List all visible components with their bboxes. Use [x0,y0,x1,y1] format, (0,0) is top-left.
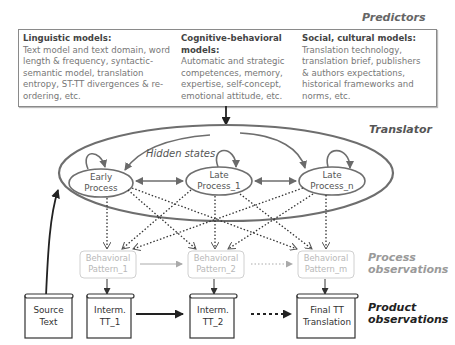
doc-line: Final TT [297,305,357,317]
doc-line: TT_1 [87,317,133,329]
behavioral-pattern-m: Behavioral Pattern_m [298,253,354,275]
node-late-process-n: Late Process_n [299,170,365,192]
hidden-states-label: Hidden states [146,148,215,159]
doc-line: Translation [297,317,357,329]
node-late-process-1: Late Process_1 [186,170,252,192]
doc-final-tt: Final TT Translation [297,305,357,328]
behavioral-pattern-2: Behavioral Pattern_2 [188,253,244,275]
pattern-line: Pattern_1 [80,264,136,275]
node-line: Late [299,170,365,181]
pattern-line: Pattern_2 [188,264,244,275]
doc-line: Source [25,305,72,317]
pattern-line: Pattern_m [298,264,354,275]
pattern-line: Behavioral [188,253,244,264]
node-line: Process_1 [186,181,252,192]
behavioral-pattern-1: Behavioral Pattern_1 [80,253,136,275]
pattern-line: Behavioral [298,253,354,264]
node-line: Early [69,172,133,183]
node-early-process: Early Process [69,172,133,194]
doc-line: Interm. [190,305,236,317]
pattern-line: Behavioral [80,253,136,264]
node-line: Process [69,183,133,194]
node-line: Late [186,170,252,181]
doc-line: Interm. [87,305,133,317]
doc-interm-tt-1: Interm. TT_1 [87,305,133,328]
doc-line: Text [25,317,72,329]
doc-interm-tt-2: Interm. TT_2 [190,305,236,328]
node-line: Process_n [299,181,365,192]
doc-source-text: Source Text [25,305,72,328]
doc-line: TT_2 [190,317,236,329]
